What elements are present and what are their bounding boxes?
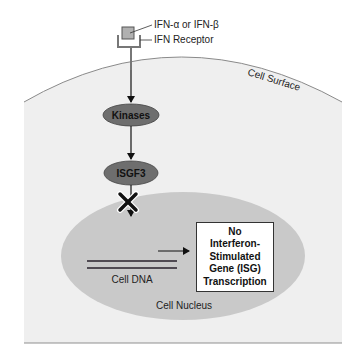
outcome-line: Stimulated (203, 251, 266, 264)
nucleus-label: Cell Nucleus (156, 300, 212, 311)
ifn-ligand-icon (122, 27, 134, 39)
receptor-label: IFN Receptor (154, 34, 214, 45)
outcome-line: Gene (ISG) (203, 263, 266, 276)
outcome-line: Transcription (203, 276, 266, 289)
diagram-canvas: Cell Surface IFN-α or IFN-β IFN Receptor… (0, 0, 362, 359)
isgf3-label: ISGF3 (117, 168, 146, 179)
outcome-line: Interferon- (203, 238, 266, 251)
ligand-label: IFN-α or IFN-β (154, 19, 219, 30)
outcome-line: No (203, 226, 266, 239)
dna-label: Cell DNA (111, 274, 152, 285)
outcome-box: No Interferon- Stimulated Gene (ISG) Tra… (196, 222, 274, 292)
kinases-label: Kinases (112, 110, 151, 121)
